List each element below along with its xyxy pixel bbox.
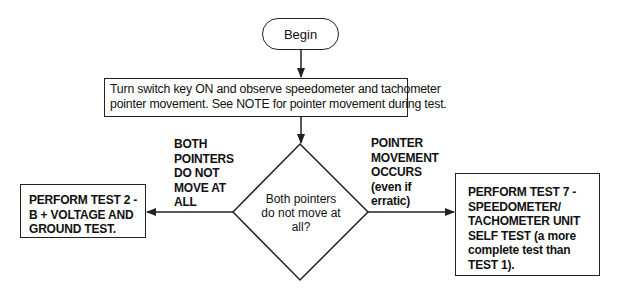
step1-process-box: Turn switch key ON and observe speedomet… xyxy=(104,78,408,117)
begin-terminal: Begin xyxy=(262,18,339,50)
step1-line: Turn switch key ON and observe speedomet… xyxy=(110,82,403,97)
decision-question: Both pointers do not move at all? xyxy=(258,192,344,234)
step1-line: pointer movement. See NOTE for pointer m… xyxy=(110,97,403,112)
test7-result-box: PERFORM TEST 7 - SPEEDOMETER/ TACHOMETER… xyxy=(455,173,600,276)
test2-result-box: PERFORM TEST 2 - B + VOLTAGE AND GROUND … xyxy=(20,184,146,238)
branch-right-condition: POINTER MOVEMENT OCCURS (even if erratic… xyxy=(371,136,439,209)
begin-label: Begin xyxy=(284,27,317,42)
branch-left-condition: BOTH POINTERS DO NOT MOVE AT ALL xyxy=(174,137,234,210)
